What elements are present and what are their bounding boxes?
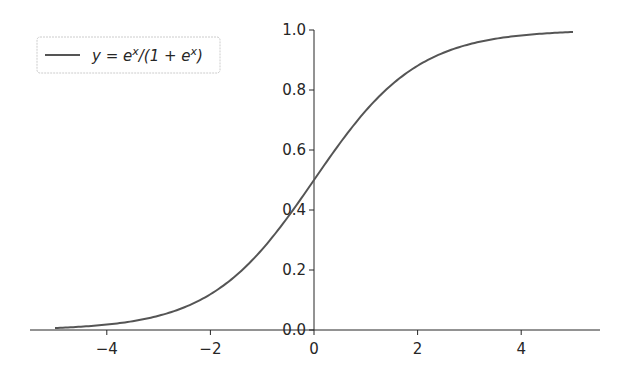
- y-tick-label: 0.2: [282, 261, 306, 279]
- y-tick-label: 1.0: [282, 21, 306, 39]
- y-tick-label: 0.6: [282, 141, 306, 159]
- x-tick-label: 0: [309, 340, 319, 358]
- legend-label: y = ex/(1 + ex): [91, 45, 203, 65]
- x-tick-label: 4: [516, 340, 526, 358]
- sigmoid-chart: −4−20240.00.20.40.60.81.0 y = ex/(1 + ex…: [0, 0, 627, 382]
- x-tick-label: −4: [96, 340, 118, 358]
- x-tick-label: −2: [199, 340, 221, 358]
- y-tick-label: 0.0: [282, 321, 306, 339]
- y-tick-label: 0.8: [282, 81, 306, 99]
- legend: y = ex/(1 + ex): [37, 37, 220, 73]
- x-tick-label: 2: [413, 340, 423, 358]
